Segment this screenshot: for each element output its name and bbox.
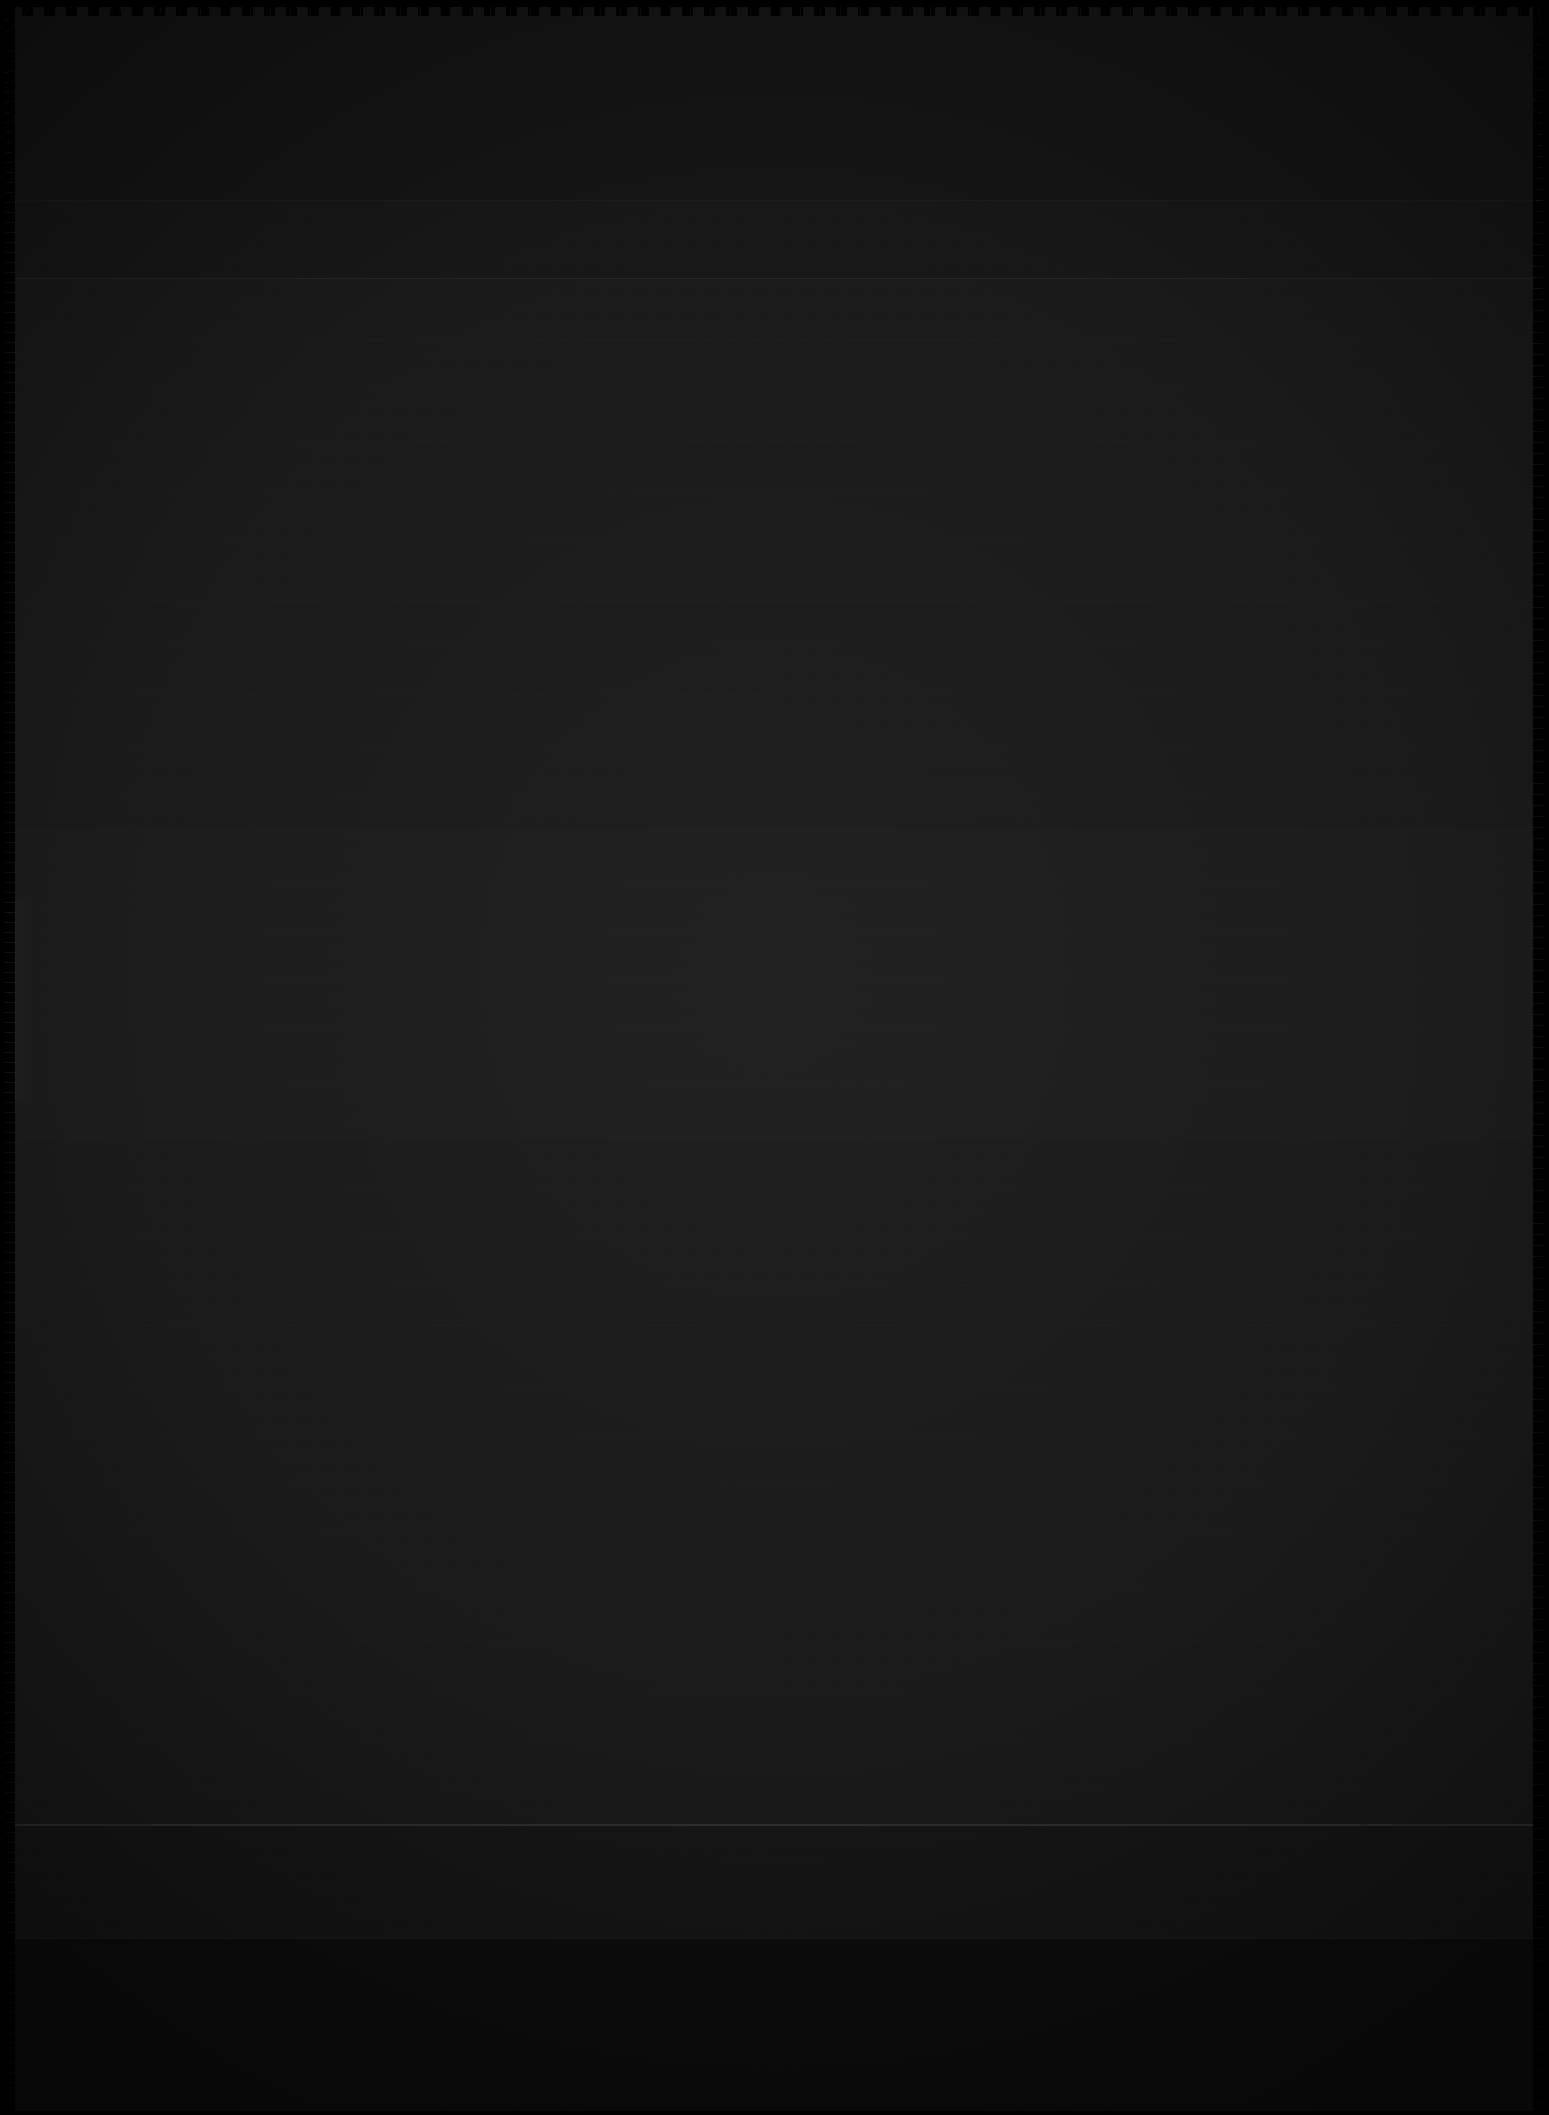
text-rule-line (60, 390, 1490, 391)
scan-light-falloff-left (0, 900, 34, 1100)
text-rule-line (60, 1690, 1490, 1691)
band-footer (0, 1938, 1549, 2115)
scan-light-falloff-left-2 (0, 1240, 26, 1390)
text-rule-line (60, 540, 1490, 541)
text-rule-line (60, 1535, 1490, 1536)
text-rule-line (60, 1785, 1490, 1786)
text-rule-line (60, 980, 1490, 981)
band-top-margin (0, 0, 1549, 200)
divider-mid-rule (0, 600, 1549, 601)
text-rule-line (60, 745, 1490, 746)
text-rule-line (60, 645, 1490, 646)
divider-upper-rule (0, 200, 1549, 201)
text-rule-line (60, 1740, 1490, 1741)
text-rule-line (60, 1285, 1490, 1286)
text-rule-line (60, 1325, 1490, 1326)
divider-footer-rule (0, 1938, 1549, 1939)
text-rule-line (60, 1435, 1490, 1436)
text-rule-line (60, 1080, 1490, 1081)
text-rule-line (60, 1235, 1490, 1236)
text-rule-line (60, 880, 1490, 881)
text-rule-line (60, 1590, 1490, 1591)
band-header-strip (0, 200, 1549, 278)
text-rule-line (60, 1640, 1490, 1641)
band-sub-footer (0, 1824, 1549, 1938)
divider-body-band-rule-2 (0, 1140, 1549, 1141)
divider-body-divider (0, 1824, 1549, 1826)
text-rule-line (60, 930, 1490, 931)
text-rule-line (60, 695, 1490, 696)
divider-header-rule (0, 278, 1549, 279)
divider-body-band-rule (0, 830, 1549, 831)
text-rule-line (60, 1185, 1490, 1186)
text-rule-line (60, 1030, 1490, 1031)
text-rule-line (60, 1390, 1490, 1391)
scanned-document-page (0, 0, 1549, 2115)
band-body-lower (0, 830, 1549, 1140)
text-rule-line (60, 795, 1490, 796)
text-rule-line (60, 490, 1490, 491)
text-rule-line (60, 1485, 1490, 1486)
divider-header-underrule (0, 340, 1549, 341)
text-rule-line (60, 440, 1490, 441)
